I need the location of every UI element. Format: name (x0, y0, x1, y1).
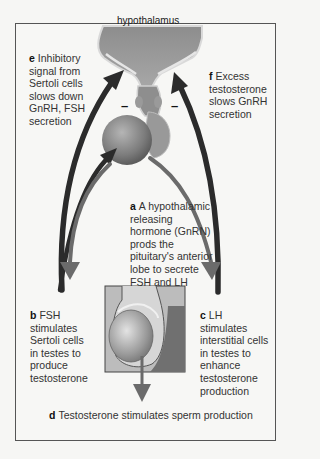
caption-e: eInhibitory signal from Sertoli cells sl… (29, 52, 93, 128)
testis-illustration (105, 286, 185, 372)
caption-c-text: LH stimulates interstitial cells in test… (200, 309, 268, 397)
caption-f-text: Excess testosterone slows GnRH secretion (209, 70, 267, 120)
caption-a-text: A hypothalamic releasing hormone (GnRN) … (130, 200, 213, 288)
caption-a: aA hypothalamic releasing hormone (GnRN)… (130, 200, 216, 288)
inhibition-mark-left: – (121, 98, 128, 113)
caption-b-letter: b (30, 309, 36, 321)
caption-f-letter: f (209, 70, 213, 82)
caption-d-letter: d (49, 409, 55, 421)
inhibition-mark-right: – (171, 98, 178, 113)
hypothalamus-label: hypothalamus (117, 15, 179, 26)
caption-b-text: FSH stimulates Sertoli cells in testes t… (30, 309, 88, 384)
caption-d: dTestosterone stimulates sperm productio… (49, 409, 269, 422)
caption-c: cLH stimulates interstitial cells in tes… (200, 309, 272, 397)
caption-f: fExcess testosterone slows GnRH secretio… (209, 70, 275, 120)
caption-e-letter: e (29, 52, 35, 64)
caption-a-letter: a (130, 200, 136, 212)
caption-b: bFSH stimulates Sertoli cells in testes … (30, 309, 90, 385)
caption-d-text: Testosterone stimulates sperm production (58, 409, 252, 421)
caption-c-letter: c (200, 309, 206, 321)
caption-e-text: Inhibitory signal from Sertoli cells slo… (29, 52, 85, 127)
